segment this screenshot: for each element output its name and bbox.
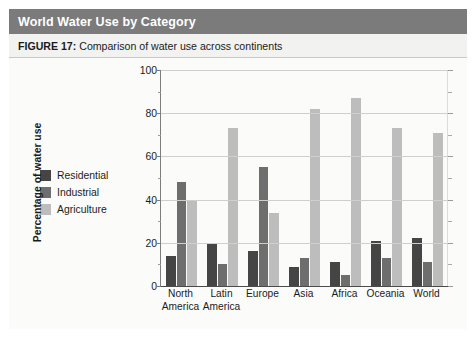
legend-item-agriculture: Agriculture [40, 201, 150, 217]
figure-caption: FIGURE 17: Comparison of water use acros… [9, 40, 282, 52]
legend-label-agriculture: Agriculture [57, 204, 107, 215]
legend-swatch-residential [40, 170, 51, 181]
figure-page: World Water Use by Category FIGURE 17: C… [0, 0, 476, 338]
legend-swatch-agriculture [40, 204, 51, 215]
chart-legend: Residential Industrial Agriculture [40, 167, 150, 218]
figure-number: FIGURE 17: [18, 40, 76, 52]
legend-item-industrial: Industrial [40, 184, 150, 200]
page-title: World Water Use by Category [9, 15, 196, 29]
figure-caption-bar: FIGURE 17: Comparison of water use acros… [9, 34, 467, 58]
figure-title-bar: World Water Use by Category [9, 9, 467, 34]
legend-label-industrial: Industrial [57, 187, 99, 198]
figure-caption-text: Comparison of water use across continent… [76, 40, 282, 52]
legend-item-residential: Residential [40, 167, 150, 183]
legend-swatch-industrial [40, 187, 51, 198]
figure-card: World Water Use by Category FIGURE 17: C… [9, 9, 467, 329]
legend-label-residential: Residential [57, 170, 108, 181]
